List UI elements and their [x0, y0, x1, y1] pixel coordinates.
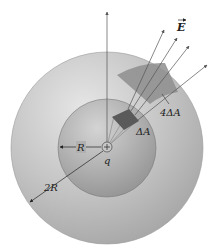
- small-area-label: ΔA: [135, 126, 150, 137]
- inner-radius-label: R: [76, 142, 85, 153]
- outer-radius-label: 2R: [43, 182, 58, 193]
- gauss-law-spheres-diagram: E 4ΔA ΔA R 2R q: [0, 0, 216, 252]
- field-label: E: [176, 21, 186, 34]
- charge-label: q: [104, 155, 110, 166]
- large-area-label: 4ΔA: [159, 107, 181, 118]
